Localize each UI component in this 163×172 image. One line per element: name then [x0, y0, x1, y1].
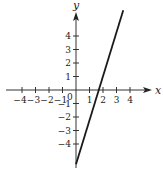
y-tick-label: 4 [65, 31, 71, 41]
y-axis-label: y [72, 0, 80, 12]
x-tick-label: 2 [100, 95, 106, 105]
x-tick-label: −2 [40, 95, 53, 105]
y-tick-label: 2 [65, 58, 71, 68]
x-tick-label: 1 [87, 95, 93, 105]
x-axis: −4−3−2−11234 [6, 87, 152, 105]
x-tick-label: 4 [127, 95, 133, 105]
y-tick-label: 1 [65, 72, 71, 82]
y-tick-label: −4 [58, 139, 72, 149]
y-tick-label: −2 [58, 112, 71, 122]
y-tick-label: 3 [65, 45, 71, 55]
y-tick-label: −3 [58, 126, 72, 136]
x-tick-label: −4 [13, 95, 27, 105]
x-tick-label: 3 [114, 95, 120, 105]
line-graph: −4−3−2−11234 −4−3−2−11234 x y 0 [0, 0, 163, 172]
x-axis-label: x [155, 84, 162, 97]
origin-label: 0 [67, 92, 73, 102]
x-tick-label: −3 [27, 95, 41, 105]
